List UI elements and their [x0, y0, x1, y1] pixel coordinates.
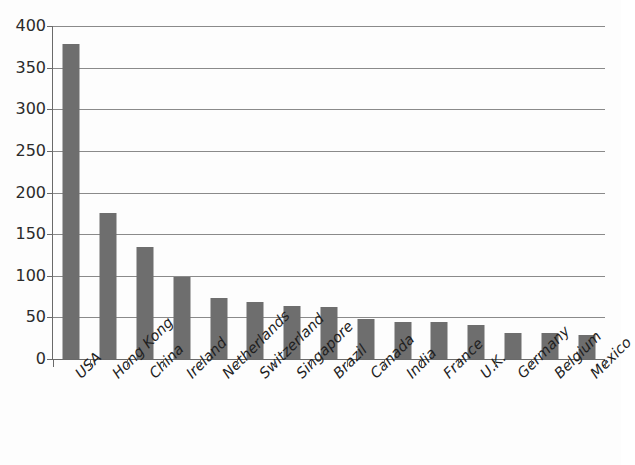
x-axis-tick-mark	[458, 360, 459, 367]
x-axis-tick-mark	[237, 360, 238, 367]
x-axis-tick-label: U.K.	[477, 349, 509, 381]
x-axis-tick-mark	[531, 360, 532, 367]
x-axis-tick-mark	[605, 360, 606, 367]
x-axis-tick-mark	[384, 360, 385, 367]
x-axis-tick-mark	[163, 360, 164, 367]
x-axis-tick-mark	[568, 360, 569, 367]
x-axis-tick-mark	[274, 360, 275, 367]
x-axis-tick-mark	[495, 360, 496, 367]
x-axis-tick-mark	[347, 360, 348, 367]
x-axis-tick-label: USA	[72, 349, 104, 381]
x-axis-tick-mark	[421, 360, 422, 367]
x-axis-tick-mark	[311, 360, 312, 367]
x-axis-tick-mark	[90, 360, 91, 367]
x-axis-tick-mark	[127, 360, 128, 367]
x-axis-tick-mark	[53, 360, 54, 367]
x-axis-tick-label: France	[440, 335, 486, 381]
x-axis-tick-mark	[200, 360, 201, 367]
